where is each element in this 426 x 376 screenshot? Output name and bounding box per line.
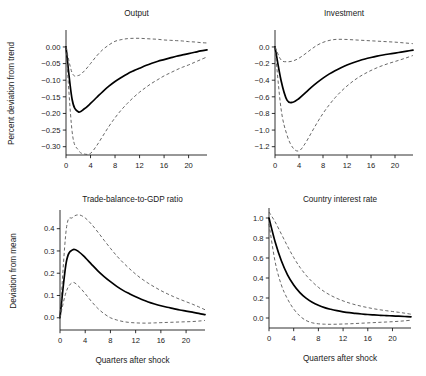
y-tick-label: 0.2 — [44, 269, 55, 278]
x-axis-label: Quarters after shock — [303, 354, 378, 363]
x-tick-label: 20 — [182, 336, 190, 345]
x-tick-label: 20 — [391, 161, 399, 170]
y-tick-label: 0.0 — [259, 43, 270, 52]
x-tick-label: 16 — [157, 336, 165, 345]
x-tick-label: 8 — [113, 161, 117, 170]
series-mean — [60, 249, 205, 317]
y-tick-label: 0.3 — [44, 247, 55, 256]
y-tick-label: 0.2 — [253, 294, 264, 303]
x-tick-label: 4 — [83, 336, 87, 345]
x-tick-label: 12 — [131, 336, 139, 345]
y-tick-label: −0.4 — [255, 76, 270, 85]
x-axis-label: Quarters after shock — [95, 356, 170, 365]
x-tick-label: 20 — [184, 161, 192, 170]
x-tick-label: 20 — [388, 334, 396, 343]
x-tick-label: 12 — [135, 161, 143, 170]
x-tick-label: 0 — [58, 336, 62, 345]
x-tick-label: 12 — [343, 161, 351, 170]
series-lower-band — [66, 47, 207, 154]
series-lower-band — [269, 224, 411, 324]
y-tick-label: 0.4 — [44, 224, 55, 233]
y-tick-label: −1.2 — [255, 142, 270, 151]
x-tick-label: 12 — [339, 334, 347, 343]
y-tick-label: 0.6 — [253, 254, 264, 263]
y-tick-label: 0.00 — [46, 43, 61, 52]
y-tick-label: 0.8 — [253, 234, 264, 243]
y-tick-label: −0.8 — [255, 109, 270, 118]
series-mean — [269, 218, 411, 317]
x-tick-label: 0 — [64, 161, 68, 170]
y-tick-label: −0.15 — [41, 93, 60, 102]
y-tick-label: −0.30 — [41, 142, 60, 151]
series-upper-band — [275, 39, 413, 61]
y-tick-label: −0.6 — [255, 93, 270, 102]
chart-title: Output — [124, 9, 149, 18]
x-tick-label: 8 — [108, 336, 112, 345]
y-tick-label: −0.25 — [41, 126, 60, 135]
series-mean — [66, 47, 207, 112]
series-upper-band — [269, 212, 411, 314]
y-tick-label: 1.0 — [253, 214, 264, 223]
chart-panel-investment: Investment0.0−0.2−0.4−0.6−0.8−1.0−1.2048… — [213, 0, 426, 188]
series-lower-band — [275, 47, 413, 151]
x-tick-label: 16 — [367, 161, 375, 170]
series-lower-band — [60, 282, 205, 323]
y-axis-label: Percent deviation from trend — [7, 42, 16, 145]
y-tick-label: −0.20 — [41, 109, 60, 118]
y-tick-label: −0.05 — [41, 59, 60, 68]
x-tick-label: 4 — [297, 161, 301, 170]
impulse-response-figure: Output0.00−0.05−0.10−0.15−0.20−0.25−0.30… — [0, 0, 426, 376]
chart-panel-output: Output0.00−0.05−0.10−0.15−0.20−0.25−0.30… — [0, 0, 213, 188]
chart-title: Trade-balance-to-GDP ratio — [82, 195, 183, 204]
y-tick-label: 0.4 — [253, 274, 264, 283]
y-tick-label: −1.0 — [255, 126, 270, 135]
x-tick-label: 0 — [273, 161, 277, 170]
chart-panel-country-interest-rate: Country interest rate0.00.20.40.60.81.00… — [213, 188, 426, 376]
chart-panel-trade-balance-to-gdp-ratio: Trade-balance-to-GDP ratio0.00.10.20.30.… — [0, 188, 213, 376]
x-tick-label: 0 — [267, 334, 271, 343]
x-tick-label: 16 — [364, 334, 372, 343]
x-tick-label: 8 — [321, 161, 325, 170]
y-tick-label: −0.10 — [41, 76, 60, 85]
x-tick-label: 4 — [88, 161, 92, 170]
x-tick-label: 4 — [292, 334, 296, 343]
x-tick-label: 16 — [160, 161, 168, 170]
y-tick-label: −0.2 — [255, 59, 270, 68]
y-tick-label: 0.0 — [44, 313, 55, 322]
x-tick-label: 8 — [316, 334, 320, 343]
chart-title: Investment — [324, 9, 365, 18]
y-axis-label: Deviation from mean — [9, 233, 18, 309]
chart-title: Country interest rate — [303, 195, 378, 204]
series-mean — [275, 47, 413, 103]
y-tick-label: 0.1 — [44, 291, 55, 300]
series-upper-band — [60, 215, 205, 318]
y-tick-label: 0.0 — [253, 314, 264, 323]
